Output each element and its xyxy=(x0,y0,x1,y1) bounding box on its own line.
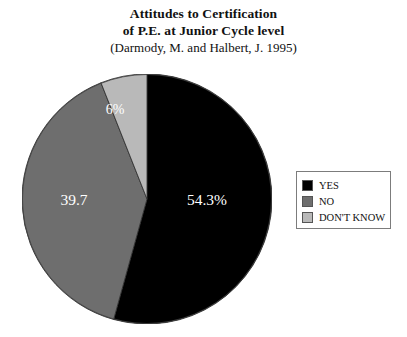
legend-item-no[interactable]: NO xyxy=(302,193,390,209)
pie-label-dont-know: 6% xyxy=(95,102,135,118)
legend-item-dont-know[interactable]: DON'T KNOW xyxy=(302,209,390,225)
chart-title-block: Attitudes to Certification of P.E. at Ju… xyxy=(0,6,407,56)
legend-swatch-no xyxy=(302,196,313,207)
page-title-line-1: Attitudes to Certification xyxy=(0,6,407,23)
pie-chart: 54.3% 39.7 6% xyxy=(22,74,272,324)
pie-label-yes: 54.3% xyxy=(172,191,242,209)
chart-legend: YES NO DON'T KNOW xyxy=(296,171,391,229)
legend-item-yes[interactable]: YES xyxy=(302,177,390,193)
legend-label-dont-know: DON'T KNOW xyxy=(319,212,385,223)
legend-swatch-yes xyxy=(302,180,313,191)
pie-chart-figure: Attitudes to Certification of P.E. at Ju… xyxy=(0,0,407,337)
page-title-line-2: of P.E. at Junior Cycle level xyxy=(0,23,407,40)
legend-swatch-dont-know xyxy=(302,212,313,223)
pie-label-no: 39.7 xyxy=(44,191,104,209)
legend-label-yes: YES xyxy=(319,180,339,191)
legend-label-no: NO xyxy=(319,196,334,207)
chart-citation: (Darmody, M. and Halbert, J. 1995) xyxy=(0,39,407,56)
